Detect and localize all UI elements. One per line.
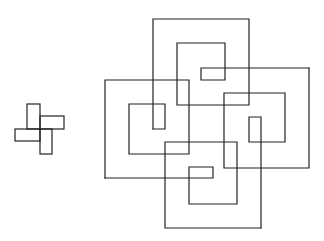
pinwheel-figure (15, 104, 64, 154)
diagram-canvas (0, 0, 324, 241)
pinwheel-rect-1 (40, 116, 64, 129)
bottom-spiral (105, 142, 261, 228)
pinwheel-rect-3 (15, 129, 40, 141)
pinwheel-rect-2 (40, 129, 52, 154)
pinwheel-rect-0 (27, 104, 40, 129)
interlocking-spirals-figure (105, 19, 309, 228)
